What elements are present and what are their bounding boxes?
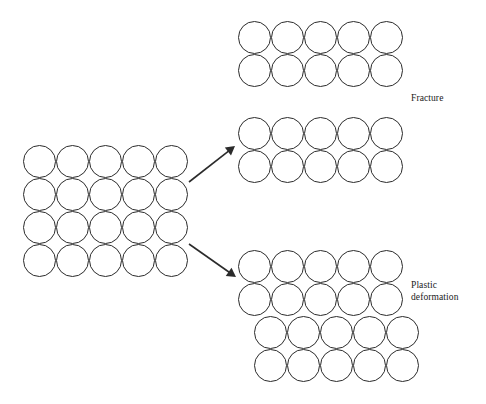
atom-circle xyxy=(321,350,353,382)
atom-circle xyxy=(239,151,271,183)
atom-circle xyxy=(156,212,188,244)
atom-circle xyxy=(239,22,271,54)
atom-circle xyxy=(371,251,403,283)
atom-circle xyxy=(123,212,155,244)
atom-circle xyxy=(338,284,370,316)
atom-circle xyxy=(90,146,122,178)
atom-circle xyxy=(305,118,337,150)
arrows-layer xyxy=(189,146,236,277)
atom-circle xyxy=(371,151,403,183)
atom-circle xyxy=(387,317,419,349)
atom-circle xyxy=(272,251,304,283)
atom-circle xyxy=(239,118,271,150)
atom-circle xyxy=(305,251,337,283)
atom-circle xyxy=(255,317,287,349)
arrow-shaft xyxy=(189,150,229,182)
atom-circle xyxy=(338,55,370,87)
atom-circle xyxy=(24,146,56,178)
atom-circle xyxy=(57,146,89,178)
atom-circle xyxy=(239,55,271,87)
atom-circle xyxy=(24,245,56,277)
atom-circle xyxy=(24,212,56,244)
arrow-head xyxy=(226,268,236,277)
atom-circle xyxy=(288,317,320,349)
original-lattice xyxy=(24,146,188,277)
atom-circle xyxy=(288,350,320,382)
atom-circle xyxy=(305,151,337,183)
atom-circle xyxy=(387,350,419,382)
atom-circle xyxy=(156,146,188,178)
atom-circle xyxy=(321,317,353,349)
atom-circle xyxy=(57,212,89,244)
atom-circle xyxy=(305,284,337,316)
atom-circle xyxy=(272,151,304,183)
atom-circle xyxy=(156,245,188,277)
atom-circle xyxy=(24,179,56,211)
atom-circle xyxy=(272,22,304,54)
atom-circle xyxy=(272,284,304,316)
fracture-upper-fragment xyxy=(239,22,403,87)
arrow-fracture xyxy=(189,146,235,182)
atom-circle xyxy=(371,22,403,54)
atom-circle xyxy=(239,251,271,283)
arrow-shaft xyxy=(189,244,230,273)
atom-circle xyxy=(371,55,403,87)
atom-circle xyxy=(272,118,304,150)
lattice-diagram xyxy=(0,0,486,404)
slipped-lattice xyxy=(239,251,419,382)
atom-circle xyxy=(57,179,89,211)
atom-circle xyxy=(371,118,403,150)
atom-circle xyxy=(239,284,271,316)
label-fracture: Fracture xyxy=(411,92,443,104)
atom-circle xyxy=(90,212,122,244)
clusters-layer xyxy=(24,22,419,382)
atom-circle xyxy=(305,22,337,54)
label-plastic-deformation: Plastic deformation xyxy=(411,279,459,303)
atom-circle xyxy=(123,179,155,211)
fracture-lower-fragment xyxy=(239,118,403,183)
atom-circle xyxy=(90,245,122,277)
diagram-canvas: Fracture Plastic deformation xyxy=(0,0,486,404)
atom-circle xyxy=(156,179,188,211)
atom-circle xyxy=(255,350,287,382)
atom-circle xyxy=(305,55,337,87)
atom-circle xyxy=(354,317,386,349)
atom-circle xyxy=(338,251,370,283)
atom-circle xyxy=(123,245,155,277)
atom-circle xyxy=(338,118,370,150)
arrow-plastic xyxy=(189,244,236,277)
atom-circle xyxy=(354,350,386,382)
atom-circle xyxy=(90,179,122,211)
atom-circle xyxy=(272,55,304,87)
atom-circle xyxy=(338,151,370,183)
arrow-head xyxy=(225,146,235,155)
atom-circle xyxy=(57,245,89,277)
atom-circle xyxy=(338,22,370,54)
atom-circle xyxy=(371,284,403,316)
atom-circle xyxy=(123,146,155,178)
